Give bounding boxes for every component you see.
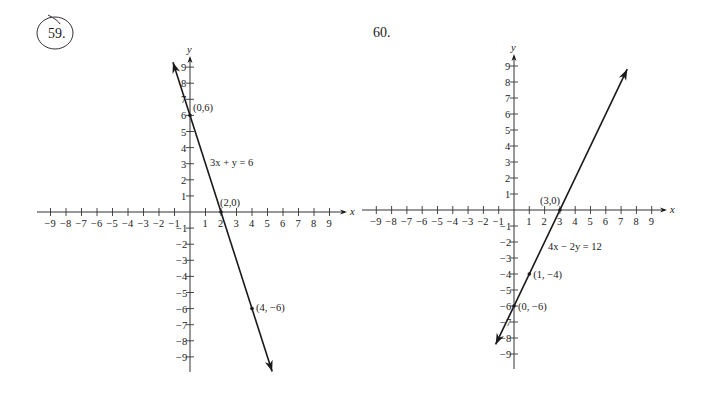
y-tick-label: −1: [176, 223, 187, 234]
x-tick-label: 1: [526, 216, 531, 227]
x-tick-label: −2: [153, 218, 164, 229]
x-tick-label: −2: [477, 216, 488, 227]
problem-60: 60. xy−9−8−7−6−5−4−3−2−11234567899876543…: [362, 25, 675, 369]
y-tick-label: 8: [505, 77, 510, 88]
y-tick-label: −9: [500, 349, 511, 360]
point-marker: [528, 272, 532, 276]
graph-60: xy−9−8−7−6−5−4−3−2−1123456789987654321−1…: [362, 42, 675, 369]
x-tick-label: 3: [234, 218, 239, 229]
x-tick-label: −3: [462, 216, 473, 227]
point-marker: [558, 208, 562, 212]
x-tick-label: −5: [107, 218, 118, 229]
x-tick-label: 4: [572, 216, 578, 227]
x-tick-label: −7: [401, 216, 412, 227]
y-tick-label: −1: [500, 221, 511, 232]
x-tick-label: −5: [432, 216, 443, 227]
point-label: (2,0): [220, 197, 241, 209]
problem-59: 59. xy−9−8−7−6−5−4−3−2−11234567899876543…: [37, 15, 355, 372]
point-label: (0, −6): [518, 301, 547, 313]
x-tick-label: 8: [311, 218, 316, 229]
y-tick-label: −9: [176, 352, 187, 363]
y-tick-label: 4: [181, 143, 187, 154]
x-tick-label: 3: [557, 216, 562, 227]
x-tick-label: 9: [649, 216, 654, 227]
x-tick-label: −8: [386, 216, 397, 227]
point-marker: [219, 210, 223, 214]
x-tick-label: −7: [76, 218, 87, 229]
y-tick-label: 1: [505, 189, 510, 200]
x-tick-label: 2: [218, 218, 223, 229]
x-tick-label: 5: [588, 216, 593, 227]
x-tick-label: 1: [203, 218, 208, 229]
y-tick-label: 5: [505, 125, 510, 136]
y-tick-label: −6: [500, 301, 511, 312]
graphs-canvas: 59. xy−9−8−7−6−5−4−3−2−11234567899876543…: [0, 0, 711, 399]
x-tick-label: −9: [45, 218, 56, 229]
x-tick-label: 5: [265, 218, 270, 229]
x-tick-label: 7: [296, 218, 301, 229]
y-tick-label: 4: [505, 141, 511, 152]
point-label: (3,0): [540, 195, 561, 207]
y-tick-label: −4: [176, 271, 188, 282]
y-tick-label: 5: [181, 127, 186, 138]
x-tick-label: 4: [249, 218, 255, 229]
y-tick-label: 1: [181, 191, 186, 202]
problem-number: 60.: [373, 25, 391, 40]
y-tick-label: 3: [181, 159, 186, 170]
pencil-mark: [48, 15, 60, 24]
point-label: (0,6): [193, 102, 214, 114]
x-tick-label: −3: [138, 218, 149, 229]
x-tick-label: 8: [633, 216, 638, 227]
y-tick-label: −2: [500, 237, 511, 248]
x-tick-label: −6: [416, 216, 427, 227]
x-tick-label: 2: [542, 216, 547, 227]
point-marker: [250, 307, 254, 311]
point-label: (4, −6): [256, 302, 285, 314]
y-tick-label: −5: [176, 288, 187, 299]
y-axis-label: y: [510, 42, 516, 53]
y-axis-label: y: [186, 44, 192, 55]
y-tick-label: −3: [500, 253, 511, 264]
x-axis-label: x: [669, 204, 675, 215]
point-label: (1, −4): [533, 269, 562, 281]
y-tick-label: 3: [505, 157, 510, 168]
point-marker: [512, 304, 516, 308]
y-tick-label: −4: [500, 269, 512, 280]
y-tick-label: 6: [505, 109, 510, 120]
y-tick-label: −5: [500, 285, 511, 296]
equation-label: 3x + y = 6: [210, 157, 253, 168]
graph-line: [496, 69, 628, 344]
y-tick-label: −8: [176, 336, 187, 347]
graph-59: xy−9−8−7−6−5−4−3−2−1123456789987654321−1…: [37, 44, 355, 372]
x-tick-label: 6: [603, 216, 608, 227]
x-tick-label: −4: [122, 218, 134, 229]
point-marker: [188, 114, 192, 118]
x-tick-label: −9: [370, 216, 381, 227]
x-tick-label: 9: [327, 218, 332, 229]
x-tick-label: 7: [618, 216, 623, 227]
x-tick-label: −4: [447, 216, 459, 227]
y-tick-label: 7: [505, 93, 510, 104]
equation-label: 4x − 2y = 12: [548, 241, 602, 252]
x-tick-label: −6: [91, 218, 102, 229]
y-tick-label: 9: [505, 61, 510, 72]
y-tick-label: −8: [500, 333, 511, 344]
x-axis-label: x: [349, 206, 355, 217]
problem-number: 59.: [48, 26, 66, 41]
x-tick-label: 6: [280, 218, 285, 229]
x-tick-label: −8: [60, 218, 71, 229]
y-tick-label: 2: [505, 173, 510, 184]
y-tick-label: −2: [176, 239, 187, 250]
y-tick-label: −3: [176, 255, 187, 266]
y-tick-label: 9: [181, 62, 186, 73]
y-tick-label: −7: [176, 320, 187, 331]
y-tick-label: 6: [181, 110, 186, 121]
y-tick-label: 2: [181, 175, 186, 186]
y-tick-label: −6: [176, 304, 187, 315]
